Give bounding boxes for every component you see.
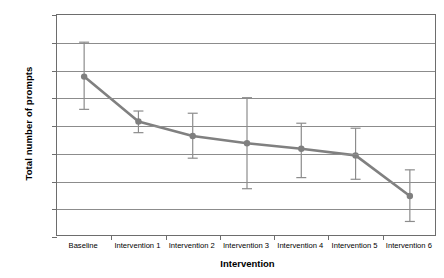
data-point-marker <box>81 73 87 79</box>
gridline <box>57 126 435 127</box>
gridline <box>57 154 435 155</box>
x-axis-tick-label: Intervention 6 <box>386 241 432 250</box>
y-axis-tick-mark <box>52 15 57 16</box>
x-axis-tick-mark <box>166 235 167 240</box>
x-axis-tick-mark <box>274 235 275 240</box>
x-axis-tick-mark <box>383 235 384 240</box>
x-axis-tick-label: Intervention 4 <box>277 241 323 250</box>
x-axis-tick-mark <box>328 235 329 240</box>
data-point-marker <box>407 193 413 199</box>
data-point-marker <box>190 133 196 139</box>
plot-area <box>56 14 436 236</box>
chart-container: Total number of prompts Intervention 00.… <box>0 0 444 278</box>
gridline <box>57 182 435 183</box>
data-point-marker <box>244 140 250 146</box>
y-axis-tick-mark <box>52 154 57 155</box>
x-axis-tick-label: Intervention 2 <box>169 241 215 250</box>
y-axis-tick-mark <box>52 43 57 44</box>
x-axis-tick-mark <box>220 235 221 240</box>
x-axis-tick-label: Intervention 3 <box>223 241 269 250</box>
gridline <box>57 43 435 44</box>
x-axis-tick-mark <box>111 235 112 240</box>
y-axis-tick-mark <box>52 71 57 72</box>
gridline <box>57 98 435 99</box>
x-axis-tick-label: Intervention 5 <box>332 241 378 250</box>
y-axis-tick-mark <box>52 182 57 183</box>
y-axis-tick-mark <box>52 209 57 210</box>
y-axis-tick-mark <box>52 237 57 238</box>
y-axis-tick-mark <box>52 98 57 99</box>
x-axis-tick-label: Baseline <box>69 241 98 250</box>
gridline <box>57 71 435 72</box>
x-axis-tick-label: Intervention 1 <box>114 241 160 250</box>
y-axis-tick-mark <box>52 126 57 127</box>
x-axis-title: Intervention <box>55 258 440 269</box>
data-point-marker <box>298 146 304 152</box>
gridline <box>57 209 435 210</box>
data-point-marker <box>135 118 141 124</box>
y-axis-title: Total number of prompts <box>23 44 34 204</box>
